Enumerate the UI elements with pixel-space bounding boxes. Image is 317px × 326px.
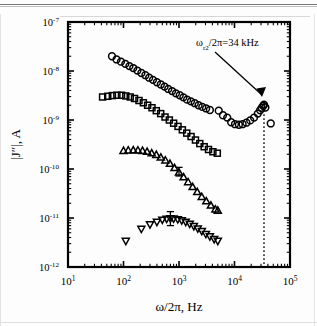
- data-point-series-4-down-triangles: [146, 222, 153, 228]
- y-tick-label-2: 10-8: [43, 65, 60, 77]
- data-point-series-1-circles: [267, 120, 274, 127]
- figure-panel: 10110210310410510-710-810-910-1010-1110-…: [0, 0, 317, 326]
- data-point-series-4-down-triangles: [138, 226, 145, 232]
- axes-frame: [68, 22, 290, 267]
- y-axis-title: |J″|, A: [8, 128, 23, 159]
- data-point-series-3-triangles: [203, 198, 210, 204]
- annotation-label: ωr2/2π=34 kHz: [196, 37, 259, 52]
- y-tick-label-4: 10-10: [39, 163, 59, 175]
- y-tick-label-6: 10-12: [39, 261, 59, 273]
- data-point-series-4-down-triangles: [122, 238, 129, 244]
- scatter-plot: 10110210310410510-710-810-910-1010-1110-…: [0, 0, 317, 326]
- x-tick-label-5: 105: [283, 274, 298, 288]
- x-tick-label-2: 102: [116, 274, 131, 288]
- x-axis-title: ω/2π, Hz: [156, 299, 203, 314]
- y-tick-label-3: 10-9: [43, 114, 60, 126]
- x-tick-label-1: 101: [61, 274, 76, 288]
- y-tick-label-5: 10-11: [39, 212, 59, 224]
- x-tick-label-3: 103: [172, 274, 187, 288]
- data-point-series-4-down-triangles: [214, 238, 221, 244]
- x-tick-label-4: 104: [227, 274, 242, 288]
- annotation-arrow-shaft: [215, 52, 262, 95]
- y-tick-label-1: 10-7: [43, 16, 60, 28]
- data-point-series-4-down-triangles: [153, 219, 160, 225]
